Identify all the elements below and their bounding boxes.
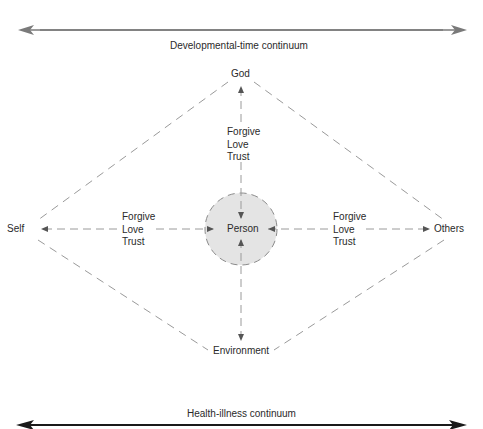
relation-word: Trust [122,236,155,249]
relation-word: Forgive [122,211,155,224]
relation-self-person: Forgive Love Trust [122,211,155,249]
node-person: Person [227,223,259,235]
health-illness-arrow [16,420,467,429]
developmental-time-label: Developmental-time continuum [170,40,308,52]
node-others: Others [434,223,464,235]
relation-word: Trust [333,236,366,249]
diagram-lines [0,0,483,429]
node-god: God [231,68,250,80]
relation-word: Forgive [333,211,366,224]
developmental-time-arrow [18,25,467,35]
relation-god-person: Forgive Love Trust [227,126,260,164]
relation-others-person: Forgive Love Trust [333,211,366,249]
relation-word: Love [227,139,260,152]
relation-word: Trust [227,151,260,164]
relation-word: Forgive [227,126,260,139]
node-environment: Environment [213,345,269,357]
health-illness-label: Health-illness continuum [187,408,296,420]
node-self: Self [7,223,24,235]
relation-word: Love [333,224,366,237]
relation-word: Love [122,224,155,237]
diagram-canvas: Developmental-time continuum God Self Ot… [0,0,483,429]
